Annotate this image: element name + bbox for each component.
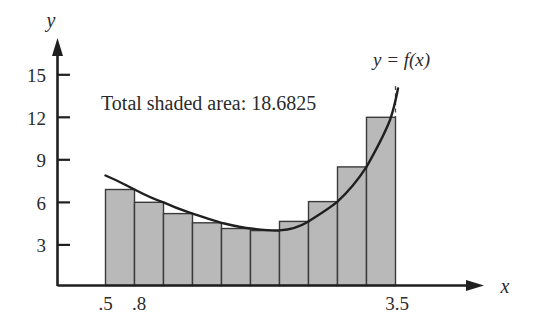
- y-tick-label-15: 15: [27, 65, 46, 86]
- bar-5: [222, 229, 251, 286]
- bar-6: [251, 231, 280, 286]
- x-tick-label-3-5: 3.5: [385, 293, 409, 314]
- curve-label: y = f(x): [371, 49, 430, 71]
- bar-3: [164, 214, 193, 286]
- bar-10: [367, 117, 396, 285]
- y-tick-label-6: 6: [37, 193, 47, 214]
- bar-4: [193, 223, 222, 286]
- bar-2: [135, 202, 164, 285]
- y-axis-label: y: [45, 9, 56, 32]
- bar-8: [309, 202, 338, 286]
- chart-figure: 15 12 9 6 3 .5 .8 3.5 y x Total shaded a…: [0, 0, 534, 329]
- x-axis-label: x: [500, 275, 510, 297]
- x-tick-label-0-8: .8: [132, 293, 146, 314]
- y-axis-arrow-icon: [52, 38, 63, 56]
- y-tick-label-9: 9: [37, 150, 47, 171]
- total-area-annotation: Total shaded area: 18.6825: [101, 92, 316, 114]
- y-tick-label-3: 3: [37, 235, 47, 256]
- x-tick-label-0-5: .5: [98, 293, 112, 314]
- y-ticks-group: [58, 75, 71, 245]
- y-tick-label-12: 12: [27, 108, 46, 129]
- x-axis-arrow-icon: [466, 280, 484, 291]
- bars-group: [106, 117, 396, 285]
- riemann-sum-chart: 15 12 9 6 3 .5 .8 3.5 y x Total shaded a…: [0, 0, 534, 329]
- bar-1: [106, 190, 135, 286]
